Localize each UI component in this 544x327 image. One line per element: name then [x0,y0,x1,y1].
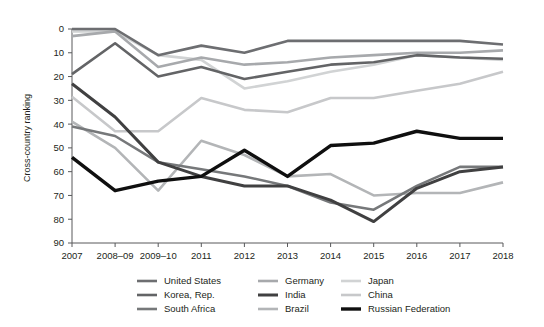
x-tick-label: 2008–09 [97,250,134,261]
x-tick-label: 2009–10 [140,250,177,261]
y-axis-title-label: Cross-country ranking [22,94,32,182]
chart-figure: Cross-country ranking 010203040506070809… [0,0,544,327]
x-tick-label: 2018 [492,250,513,261]
y-tick-label: 40 [53,119,64,130]
y-tick-label: 0 [59,23,64,34]
legend-label-india: India [285,289,306,300]
x-tick-label: 2015 [363,250,384,261]
y-tick-label: 10 [53,47,64,58]
x-tick-label: 2013 [277,250,298,261]
legend-label-brazil: Brazil [285,303,309,314]
legend-label-japan: Japan [368,275,394,286]
legend-label-china: China [368,289,394,300]
x-tick-label: 2016 [406,250,427,261]
y-tick-label: 20 [53,71,64,82]
x-tick-label: 2007 [61,250,82,261]
cross-country-ranking-line-chart: Cross-country ranking 010203040506070809… [0,0,544,327]
y-tick-label: 30 [53,95,64,106]
y-tick-label: 70 [53,190,64,201]
legend-label-russian-federation: Russian Federation [368,303,450,314]
legend-label-united-states: United States [164,275,221,286]
x-tick-label: 2014 [320,250,341,261]
x-tick-label: 2017 [449,250,470,261]
x-tick-label: 2012 [234,250,255,261]
y-tick-label: 90 [53,237,64,248]
legend-label-korea-rep: Korea, Rep. [164,289,215,300]
y-tick-label: 80 [53,214,64,225]
y-tick-label: 50 [53,142,64,153]
x-tick-label: 2011 [191,250,211,261]
y-axis-title: Cross-country ranking [22,94,32,182]
y-tick-label: 60 [53,166,64,177]
legend-label-south-africa: South Africa [164,303,216,314]
legend-label-germany: Germany [285,275,324,286]
